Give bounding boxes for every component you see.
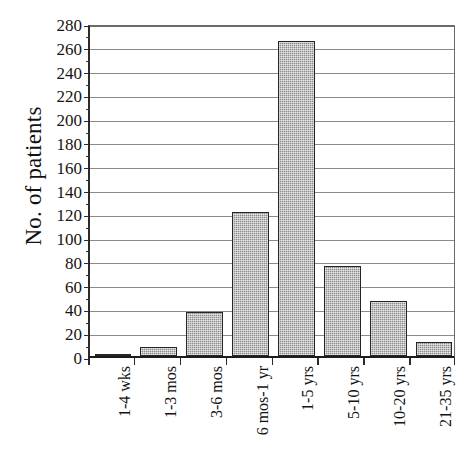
x-axis-tick-label: 1-5 yrs	[300, 366, 316, 457]
y-axis-tick-label: 60	[28, 278, 82, 295]
x-axis-ticks	[88, 358, 455, 366]
y-axis-tick-label: 40	[28, 302, 82, 319]
x-axis-tick-label: 21-35 yrs	[438, 366, 454, 457]
y-axis-tick-label: 0	[28, 350, 82, 367]
x-axis-tick	[409, 358, 411, 365]
x-axis-tick	[454, 358, 456, 365]
x-axis-tick	[134, 358, 136, 365]
x-axis-tick	[180, 358, 182, 365]
y-axis-tick-label: 280	[28, 17, 82, 34]
x-axis-tick-labels: 1-4 wks1-3 mos3-6 mos6 mos-1 yr1-5 yrs5-…	[88, 366, 455, 457]
bar	[416, 342, 453, 356]
x-axis-tick	[88, 358, 90, 365]
y-axis-tick-label: 80	[28, 254, 82, 271]
bar	[278, 41, 315, 356]
x-axis-tick-label: 10-20 yrs	[392, 366, 408, 457]
y-axis-tick-label: 220	[28, 88, 82, 105]
x-axis-tick	[317, 358, 319, 365]
x-axis-tick	[226, 358, 228, 365]
x-axis-tick-label: 3-6 mos	[209, 366, 225, 457]
x-axis-tick	[272, 358, 274, 365]
bar-series	[90, 26, 454, 356]
y-axis-tick-label: 100	[28, 231, 82, 248]
bar	[186, 312, 223, 356]
bar	[370, 301, 407, 356]
x-axis-tick-label: 1-4 wks	[117, 366, 133, 457]
y-axis-tick-label: 20	[28, 326, 82, 343]
y-axis-tick-label: 160	[28, 159, 82, 176]
y-axis-tick-label: 260	[28, 40, 82, 57]
x-axis-tick-label: 1-3 mos	[163, 366, 179, 457]
y-axis-tick-label: 120	[28, 207, 82, 224]
bar	[232, 212, 269, 356]
y-axis-tick-labels: 020406080100120140160180200220240260280	[28, 25, 82, 358]
bar	[140, 347, 177, 357]
bar	[324, 266, 361, 356]
y-axis-tick-label: 180	[28, 135, 82, 152]
y-axis-tick-label: 240	[28, 64, 82, 81]
x-axis-tick	[363, 358, 365, 365]
x-axis-tick-label: 6 mos-1 yr	[255, 366, 271, 457]
x-axis-tick-label: 5-10 yrs	[346, 366, 362, 457]
plot-area	[88, 25, 455, 358]
bar	[95, 354, 132, 357]
y-axis-tick-label: 140	[28, 183, 82, 200]
y-axis-tick-label: 200	[28, 112, 82, 129]
bar-chart-figure: No. of patients 020406080100120140160180…	[0, 0, 471, 457]
